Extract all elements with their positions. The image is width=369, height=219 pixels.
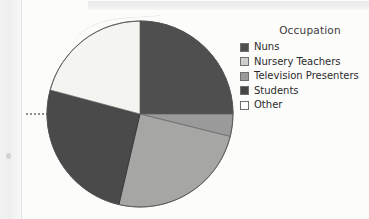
legend-label-nuns: Nuns <box>254 41 279 53</box>
legend-label-other: Other <box>254 99 282 111</box>
legend-item-television-presenters[interactable]: Television Presenters <box>240 70 368 82</box>
legend-item-nursery-teachers[interactable]: Nursery Teachers <box>240 56 368 68</box>
legend-item-other[interactable]: Other <box>240 99 368 111</box>
legend-label-nursery-teachers: Nursery Teachers <box>254 56 341 68</box>
legend-swatch-other <box>240 101 249 110</box>
legend-item-students[interactable]: Students <box>240 85 368 97</box>
legend-swatch-nursery-teachers <box>240 57 249 66</box>
legend-label-students: Students <box>254 85 299 97</box>
legend-item-nuns[interactable]: Nuns <box>240 41 368 53</box>
pie-slices <box>47 21 233 207</box>
legend: Occupation Nuns Nursery Teachers Televis… <box>240 24 368 114</box>
legend-title: Occupation <box>252 24 368 36</box>
page-canvas: Occupation Nuns Nursery Teachers Televis… <box>0 0 369 219</box>
legend-swatch-television-presenters <box>240 72 249 81</box>
legend-swatch-students <box>240 86 249 95</box>
legend-label-television-presenters: Television Presenters <box>254 70 359 82</box>
legend-swatch-nuns <box>240 43 249 52</box>
pie-slice-nuns[interactable] <box>140 21 233 114</box>
